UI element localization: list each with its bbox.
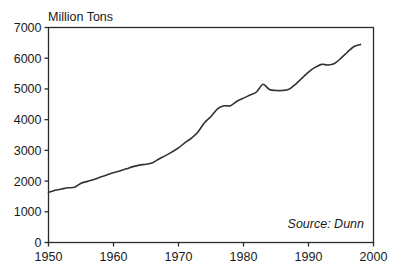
y-tick-label: 0: [35, 236, 42, 250]
x-tick-label: 1990: [295, 250, 323, 264]
y-tick-label: 6000: [14, 52, 42, 66]
y-tick-label: 2000: [14, 175, 42, 189]
x-tick-label: 1970: [165, 250, 193, 264]
y-tick-label: 4000: [14, 113, 42, 127]
y-tick-label: 5000: [14, 82, 42, 96]
y-tick-label: 7000: [14, 21, 42, 35]
chart-background: [0, 0, 399, 273]
x-tick-label: 1980: [230, 250, 258, 264]
line-chart-figure: 01000200030004000500060007000 1950196019…: [0, 0, 399, 273]
y-tick-label: 3000: [14, 144, 42, 158]
x-tick-label: 2000: [360, 250, 388, 264]
chart-canvas: 01000200030004000500060007000 1950196019…: [0, 0, 399, 273]
y-axis-title: Million Tons: [48, 10, 113, 24]
x-tick-label: 1950: [35, 250, 63, 264]
source-annotation: Source: Dunn: [288, 217, 364, 231]
y-tick-label: 1000: [14, 205, 42, 219]
x-tick-label: 1960: [100, 250, 128, 264]
